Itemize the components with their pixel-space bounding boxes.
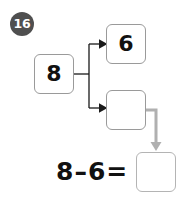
branch-connector-black — [74, 44, 99, 108]
part-box-known: 6 — [106, 24, 146, 64]
question-number-badge: 16 — [10, 12, 34, 36]
part-box-unknown[interactable] — [106, 90, 146, 130]
arrowhead-to-answer-icon — [151, 142, 162, 151]
answer-connector-gray — [146, 110, 156, 143]
equation-minus-sign: – — [73, 155, 88, 189]
equation-equals-sign: = — [105, 155, 128, 189]
part-known-value: 6 — [107, 25, 145, 62]
equation-subtrahend: 6 — [88, 157, 105, 186]
equation-minuend: 8 — [56, 157, 73, 186]
equation: 8–6= — [56, 155, 128, 189]
answer-box[interactable] — [136, 152, 176, 192]
whole-number-box: 8 — [34, 54, 74, 94]
whole-number-value: 8 — [35, 55, 73, 92]
worksheet-canvas: 16 8 6 8–6= — [0, 0, 188, 198]
